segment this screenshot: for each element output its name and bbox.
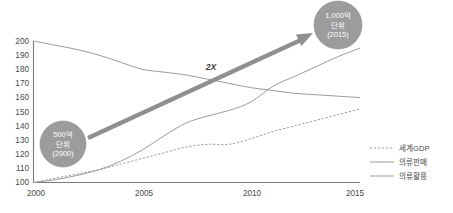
growth-arrow-shaft bbox=[88, 39, 303, 138]
y-tick-label: 140 bbox=[15, 122, 29, 131]
legend-label: 의류판매 bbox=[399, 157, 427, 167]
end-bubble-line-2: 단위 bbox=[331, 21, 345, 30]
series-layer bbox=[34, 41, 361, 183]
growth-arrow-head-icon bbox=[296, 33, 313, 46]
legend-label: 의류활용 bbox=[399, 171, 427, 181]
end-bubble-annotation: 1,000억 단위 (2015) bbox=[314, 1, 362, 49]
legend-item-clothing-sales[interactable]: 의류판매 bbox=[370, 157, 427, 167]
x-tick-label: 2005 bbox=[135, 189, 154, 198]
x-tick-label: 2000 bbox=[27, 189, 46, 198]
start-bubble-line-1: 500억 bbox=[53, 130, 72, 139]
start-bubble-line-2: 단위 bbox=[56, 140, 70, 149]
end-bubble-line-1: 1,000억 bbox=[325, 11, 351, 20]
growth-multiplier-label: 2X bbox=[205, 62, 218, 72]
growth-arrow-group: 2X bbox=[88, 33, 313, 138]
y-tick-label: 120 bbox=[15, 150, 29, 159]
legend-item-world-gdp[interactable]: 세계GDP bbox=[370, 143, 429, 153]
end-bubble-line-3: (2015) bbox=[327, 30, 348, 39]
y-tick-label: 190 bbox=[15, 51, 29, 60]
legend-label: 세계GDP bbox=[399, 143, 429, 153]
y-tick-label: 110 bbox=[16, 164, 29, 173]
legend-item-clothing-utilization[interactable]: 의류활용 bbox=[370, 171, 427, 181]
start-bubble-annotation: 500억 단위 (2000) bbox=[40, 121, 86, 167]
y-tick-label: 130 bbox=[15, 136, 29, 145]
x-tick-label: 2015 bbox=[346, 189, 365, 198]
x-axis-tick-labels: 2000 2005 2010 2015 bbox=[27, 189, 365, 198]
start-bubble-line-3: (2000) bbox=[52, 149, 73, 158]
y-tick-label: 160 bbox=[15, 93, 29, 102]
y-axis-tick-labels: 200 190 180 170 160 150 140 130 120 110 … bbox=[15, 37, 29, 187]
chart-legend: 세계GDP 의류판매 의류활용 bbox=[370, 143, 429, 181]
chart-axes bbox=[34, 41, 361, 183]
line-chart-figure: 200 190 180 170 160 150 140 130 120 110 … bbox=[0, 0, 453, 213]
series-clothing-sales bbox=[34, 48, 361, 182]
y-tick-label: 170 bbox=[15, 79, 29, 88]
y-tick-label: 150 bbox=[15, 108, 29, 117]
chart-container: 200 190 180 170 160 150 140 130 120 110 … bbox=[0, 0, 453, 213]
x-tick-label: 2010 bbox=[243, 189, 262, 198]
y-tick-label: 200 bbox=[15, 37, 29, 46]
y-tick-label: 100 bbox=[15, 178, 29, 187]
y-tick-label: 180 bbox=[15, 65, 29, 74]
